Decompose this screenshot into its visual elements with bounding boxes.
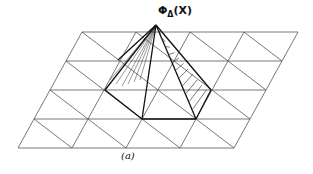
pyramid-outline: [105, 25, 211, 119]
hatched-face: [159, 31, 206, 109]
figure-caption: (a): [121, 150, 135, 161]
apex-label: ΦΔ(X): [158, 4, 192, 19]
hat-function-diagram: [0, 0, 313, 174]
triangular-grid: [18, 32, 298, 148]
